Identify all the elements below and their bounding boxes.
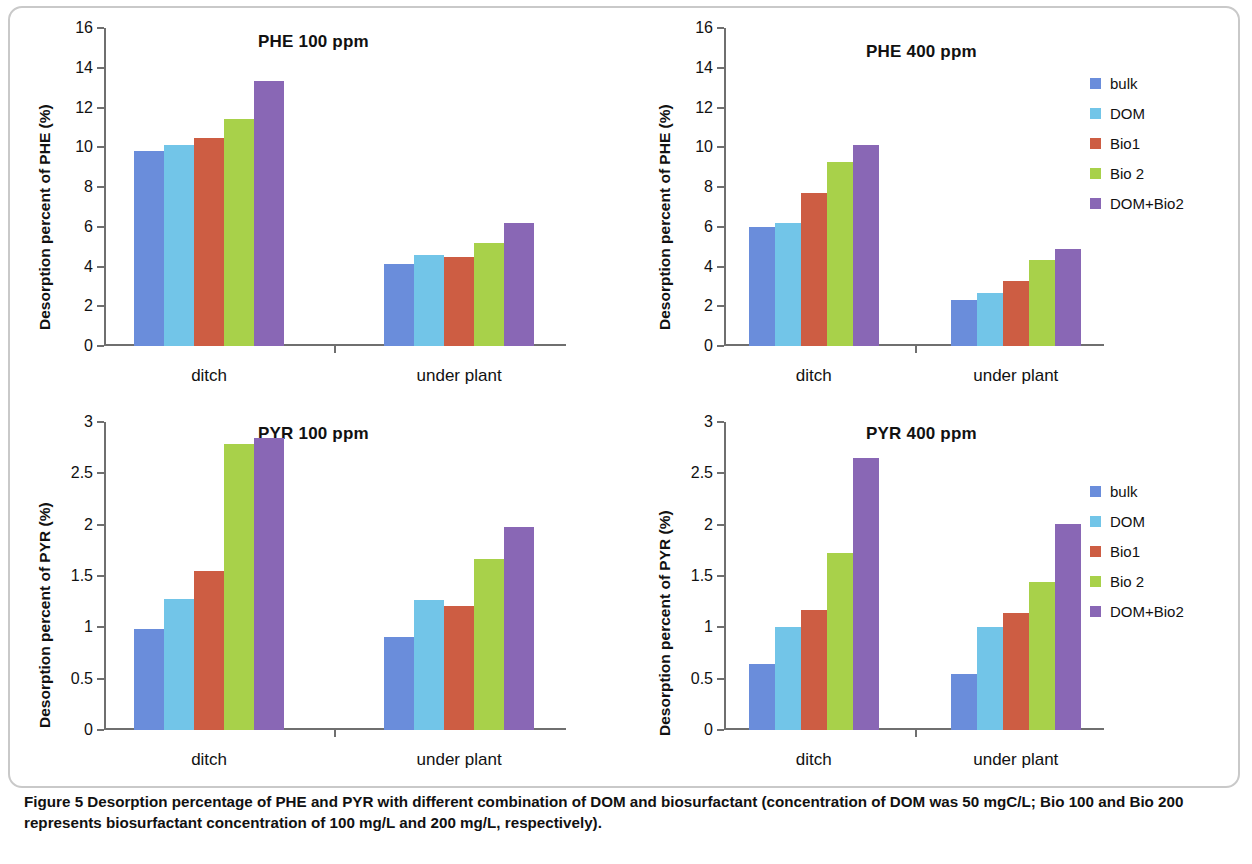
legend-item-Bio1[interactable]: Bio1 — [1090, 536, 1184, 566]
y-tick-label: 0.5 — [691, 670, 713, 688]
y-tick-label: 0 — [704, 337, 713, 355]
y-tick — [717, 107, 724, 109]
bar-pyr-400-ditch-Bio-2 — [827, 553, 853, 730]
legend-item-DOM[interactable]: DOM — [1090, 506, 1184, 536]
legend-item-DOM[interactable]: DOM — [1090, 98, 1184, 128]
legend-label: DOM+Bio2 — [1110, 603, 1184, 620]
bar-pyr-100-ditch-Bio-2 — [224, 444, 254, 730]
legend-label: Bio 2 — [1110, 165, 1144, 182]
y-tick — [97, 575, 104, 577]
bar-phe-100-under-plant-Bio1 — [444, 257, 474, 346]
bar-phe-400-ditch-DOM-Bio2 — [853, 145, 879, 346]
y-tick-label: 16 — [695, 19, 713, 37]
legend-label: Bio1 — [1110, 543, 1140, 560]
y-tick — [717, 27, 724, 29]
legend-swatch-icon — [1090, 198, 1101, 209]
y-tick-label: 2.5 — [71, 464, 93, 482]
bar-phe-400-under-plant-bulk — [951, 300, 977, 346]
bar-phe-100-ditch-DOM-Bio2 — [254, 81, 284, 346]
y-tick-label: 0.5 — [71, 670, 93, 688]
legend-swatch-icon — [1090, 516, 1101, 527]
x-tick — [334, 730, 336, 737]
bar-phe-400-under-plant-DOM — [977, 293, 1003, 346]
y-tick — [717, 678, 724, 680]
legend-swatch-icon — [1090, 606, 1101, 617]
bar-phe-100-under-plant-Bio-2 — [474, 243, 504, 346]
y-axis-label: Desorption percent of PYR (%) — [656, 510, 674, 736]
legend-swatch-icon — [1090, 546, 1101, 557]
y-tick — [97, 345, 104, 347]
y-tick-label: 3 — [704, 413, 713, 431]
legend-phe-400: bulkDOMBio1Bio 2DOM+Bio2 — [1090, 68, 1184, 218]
plot-area-phe-400: 0246810121416ditchunder plant — [724, 28, 1104, 346]
y-tick — [97, 27, 104, 29]
legend-item-DOM-Bio2[interactable]: DOM+Bio2 — [1090, 596, 1184, 626]
bar-pyr-100-ditch-bulk — [134, 629, 164, 730]
y-tick — [717, 67, 724, 69]
x-tick — [915, 346, 917, 353]
y-tick — [97, 266, 104, 268]
bar-phe-100-ditch-DOM — [164, 145, 194, 346]
y-tick — [717, 472, 724, 474]
y-tick — [97, 186, 104, 188]
bar-pyr-100-under-plant-Bio1 — [444, 606, 474, 730]
legend-item-bulk[interactable]: bulk — [1090, 476, 1184, 506]
y-tick — [717, 266, 724, 268]
bar-phe-400-ditch-Bio-2 — [827, 162, 853, 346]
legend-label: Bio 2 — [1110, 573, 1144, 590]
y-tick-label: 14 — [695, 59, 713, 77]
y-tick — [97, 146, 104, 148]
plot-area-pyr-100: 00.511.522.53ditchunder plant — [104, 422, 566, 730]
figure-caption: Figure 5 Desorption percentage of PHE an… — [24, 792, 1224, 833]
y-tick-label: 0 — [84, 721, 93, 739]
x-category-label: ditch — [796, 366, 832, 386]
bar-pyr-100-under-plant-DOM — [414, 600, 444, 730]
y-tick-label: 4 — [84, 258, 93, 276]
x-tick — [915, 730, 917, 737]
y-tick — [97, 472, 104, 474]
y-tick-label: 1 — [84, 618, 93, 636]
x-category-label: under plant — [973, 366, 1058, 386]
y-tick — [717, 345, 724, 347]
legend-item-bulk[interactable]: bulk — [1090, 68, 1184, 98]
legend-label: DOM+Bio2 — [1110, 195, 1184, 212]
legend-item-Bio-2[interactable]: Bio 2 — [1090, 566, 1184, 596]
x-category-label: under plant — [417, 750, 502, 770]
figure-caption-label: Figure 5 — [24, 793, 83, 810]
legend-label: DOM — [1110, 105, 1145, 122]
y-axis-line — [104, 422, 106, 730]
bar-pyr-400-under-plant-DOM — [977, 627, 1003, 730]
y-tick — [717, 305, 724, 307]
bar-pyr-400-ditch-DOM-Bio2 — [853, 458, 879, 730]
y-tick-label: 0 — [84, 337, 93, 355]
y-tick — [97, 305, 104, 307]
bar-pyr-100-ditch-DOM — [164, 599, 194, 730]
bar-phe-100-under-plant-bulk — [384, 264, 414, 346]
y-tick-label: 14 — [75, 59, 93, 77]
y-tick — [97, 421, 104, 423]
legend-swatch-icon — [1090, 78, 1101, 89]
plot-area-phe-100: 0246810121416ditchunder plant — [104, 28, 566, 346]
y-tick-label: 1 — [704, 618, 713, 636]
legend-item-Bio-2[interactable]: Bio 2 — [1090, 158, 1184, 188]
x-tick — [334, 346, 336, 353]
legend-swatch-icon — [1090, 108, 1101, 119]
bar-phe-400-under-plant-Bio-2 — [1029, 260, 1055, 346]
y-tick — [717, 575, 724, 577]
x-category-label: ditch — [796, 750, 832, 770]
bar-phe-400-under-plant-Bio1 — [1003, 281, 1029, 346]
bar-phe-400-under-plant-DOM-Bio2 — [1055, 249, 1081, 346]
y-tick-label: 16 — [75, 19, 93, 37]
legend-item-Bio1[interactable]: Bio1 — [1090, 128, 1184, 158]
bar-pyr-100-ditch-DOM-Bio2 — [254, 438, 284, 730]
bar-pyr-100-ditch-Bio1 — [194, 571, 224, 730]
bar-phe-100-ditch-bulk — [134, 151, 164, 346]
bar-pyr-100-under-plant-Bio-2 — [474, 559, 504, 730]
y-tick-label: 2 — [704, 516, 713, 534]
panel-phe-100: Desorption percent of PHE (%) PHE 100 pp… — [0, 0, 600, 395]
legend-label: DOM — [1110, 513, 1145, 530]
legend-item-DOM-Bio2[interactable]: DOM+Bio2 — [1090, 188, 1184, 218]
legend-swatch-icon — [1090, 576, 1101, 587]
y-tick-label: 8 — [704, 178, 713, 196]
y-tick — [97, 729, 104, 731]
